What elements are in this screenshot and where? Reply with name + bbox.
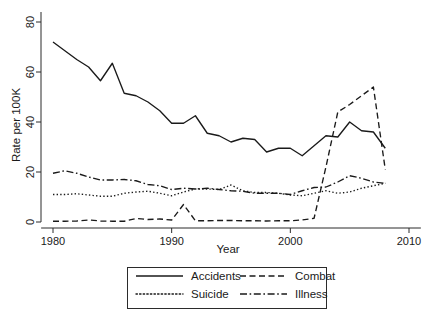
y-axis-ticks <box>36 22 41 222</box>
y-axis-title: Rate per 100K <box>10 88 22 162</box>
x-tick-label: 1990 <box>159 235 183 247</box>
y-tick-label: 60 <box>24 66 36 78</box>
y-tick-label: 20 <box>24 166 36 178</box>
series-line-combat <box>53 87 385 221</box>
x-tick-label: 2010 <box>397 235 421 247</box>
series-group <box>53 42 385 221</box>
y-axis-tick-labels: 020406080 <box>24 16 36 225</box>
legend-label-accidents: Accidents <box>191 270 241 282</box>
series-line-accidents <box>53 42 385 156</box>
legend-label-illness: Illness <box>295 288 328 300</box>
y-tick-label: 40 <box>24 116 36 128</box>
y-tick-label: 80 <box>24 16 36 28</box>
chart-legend: AccidentsCombatSuicideIllness <box>128 268 337 309</box>
series-line-illness <box>53 171 385 195</box>
y-tick-label: 0 <box>24 219 36 225</box>
x-tick-label: 1980 <box>41 235 65 247</box>
legend-items: AccidentsCombatSuicideIllness <box>136 270 336 300</box>
x-tick-label: 2000 <box>278 235 302 247</box>
line-chart-canvas: 020406080 1980199020002010 Year Rate per… <box>0 0 437 324</box>
legend-label-suicide: Suicide <box>191 288 229 300</box>
x-axis-title: Year <box>216 243 239 255</box>
x-axis-ticks <box>53 228 409 233</box>
legend-label-combat: Combat <box>295 270 336 282</box>
chart-figure: 020406080 1980199020002010 Year Rate per… <box>0 0 437 324</box>
